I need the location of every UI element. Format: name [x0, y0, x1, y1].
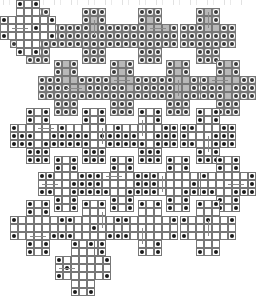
solitaire-board[interactable] [180, 8, 236, 64]
board-hole[interactable] [34, 240, 42, 248]
board-peg[interactable] [170, 216, 178, 224]
board-hole[interactable] [138, 216, 146, 224]
board-peg[interactable] [32, 24, 40, 32]
board-hole[interactable] [212, 232, 220, 240]
board-hole[interactable] [224, 92, 232, 100]
board-hole[interactable] [224, 60, 232, 68]
board-peg[interactable] [220, 132, 228, 140]
board-peg[interactable] [216, 164, 224, 172]
board-hole[interactable] [146, 116, 154, 124]
board-hole[interactable] [34, 140, 42, 148]
board-peg[interactable] [248, 76, 256, 84]
board-peg[interactable] [114, 24, 122, 32]
board-peg[interactable] [82, 40, 90, 48]
board-hole[interactable] [79, 288, 87, 296]
board-hole[interactable] [90, 116, 98, 124]
board-peg[interactable] [74, 32, 82, 40]
board-hole[interactable] [62, 188, 70, 196]
board-hole[interactable] [24, 48, 32, 56]
board-peg[interactable] [87, 240, 95, 248]
board-hole[interactable] [90, 140, 98, 148]
board-peg[interactable] [126, 60, 134, 68]
board-hole[interactable] [74, 232, 82, 240]
board-peg[interactable] [162, 132, 170, 140]
board-peg[interactable] [154, 48, 162, 56]
board-peg[interactable] [216, 100, 224, 108]
board-peg[interactable] [110, 84, 118, 92]
board-hole[interactable] [188, 224, 196, 232]
board-peg[interactable] [180, 216, 188, 224]
board-hole[interactable] [180, 224, 188, 232]
board-hole[interactable] [87, 264, 95, 272]
board-hole[interactable] [79, 256, 87, 264]
board-peg[interactable] [32, 48, 40, 56]
board-peg[interactable] [10, 124, 18, 132]
board-hole[interactable] [79, 264, 87, 272]
board-peg[interactable] [86, 180, 94, 188]
board-peg[interactable] [228, 232, 236, 240]
board-hole[interactable] [118, 180, 126, 188]
solitaire-board[interactable] [55, 240, 111, 296]
board-hole[interactable] [32, 40, 40, 48]
board-peg[interactable] [212, 8, 220, 16]
board-peg[interactable] [154, 16, 162, 24]
board-hole[interactable] [106, 224, 114, 232]
board-peg[interactable] [26, 200, 34, 208]
board-peg[interactable] [138, 24, 146, 32]
board-hole[interactable] [71, 256, 79, 264]
board-hole[interactable] [103, 264, 111, 272]
board-peg[interactable] [118, 92, 126, 100]
board-peg[interactable] [130, 32, 138, 40]
board-hole[interactable] [154, 216, 162, 224]
board-peg[interactable] [122, 232, 130, 240]
board-peg[interactable] [86, 188, 94, 196]
board-hole[interactable] [90, 108, 98, 116]
board-peg[interactable] [54, 156, 62, 164]
board-hole[interactable] [220, 224, 228, 232]
board-hole[interactable] [146, 240, 154, 248]
board-hole[interactable] [79, 248, 87, 256]
board-hole[interactable] [130, 124, 138, 132]
board-hole[interactable] [232, 172, 240, 180]
board-peg[interactable] [26, 132, 34, 140]
board-peg[interactable] [110, 100, 118, 108]
board-peg[interactable] [142, 76, 150, 84]
board-peg[interactable] [158, 92, 166, 100]
board-peg[interactable] [10, 232, 18, 240]
board-peg[interactable] [10, 216, 18, 224]
board-hole[interactable] [126, 180, 134, 188]
board-peg[interactable] [162, 124, 170, 132]
board-hole[interactable] [82, 232, 90, 240]
board-hole[interactable] [154, 124, 162, 132]
board-peg[interactable] [110, 60, 118, 68]
board-hole[interactable] [82, 124, 90, 132]
board-hole[interactable] [32, 16, 40, 24]
board-peg[interactable] [82, 48, 90, 56]
board-hole[interactable] [182, 172, 190, 180]
board-peg[interactable] [106, 40, 114, 48]
board-hole[interactable] [40, 32, 48, 40]
board-peg[interactable] [78, 172, 86, 180]
board-peg[interactable] [114, 132, 122, 140]
board-peg[interactable] [208, 92, 216, 100]
board-peg[interactable] [142, 188, 150, 196]
board-peg[interactable] [26, 240, 34, 248]
board-peg[interactable] [228, 24, 236, 32]
board-peg[interactable] [204, 40, 212, 48]
board-peg[interactable] [138, 32, 146, 40]
board-peg[interactable] [54, 60, 62, 68]
board-peg[interactable] [182, 60, 190, 68]
board-peg[interactable] [166, 76, 174, 84]
board-peg[interactable] [118, 84, 126, 92]
board-peg[interactable] [54, 84, 62, 92]
board-peg[interactable] [188, 140, 196, 148]
board-peg[interactable] [110, 164, 118, 172]
board-peg[interactable] [106, 132, 114, 140]
board-hole[interactable] [146, 200, 154, 208]
board-peg[interactable] [38, 76, 46, 84]
board-peg[interactable] [18, 132, 26, 140]
board-peg[interactable] [0, 32, 8, 40]
solitaire-board[interactable] [180, 200, 236, 256]
board-hole[interactable] [196, 224, 204, 232]
board-peg[interactable] [150, 188, 158, 196]
